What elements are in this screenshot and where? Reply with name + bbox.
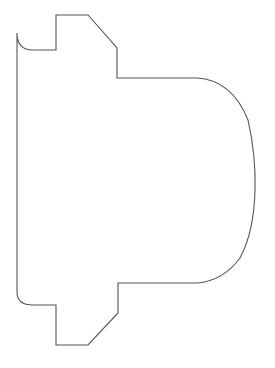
drawing-canvas	[0, 0, 275, 368]
canvas-background	[0, 0, 275, 368]
shape-outline-svg	[0, 0, 275, 368]
